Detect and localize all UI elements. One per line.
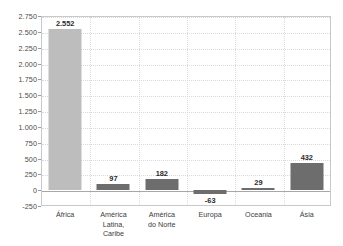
y-axis-tick-label: 2.750	[0, 12, 37, 21]
bar[interactable]	[242, 188, 275, 190]
bar[interactable]	[145, 179, 178, 191]
bar-group[interactable]: -63	[186, 16, 234, 206]
bar-group[interactable]: 182	[138, 16, 186, 206]
bar-group[interactable]: 97	[89, 16, 137, 206]
y-axis-tick-label: 1.500	[0, 91, 37, 100]
x-axis-tick-label: América Latina,Caribe	[89, 210, 137, 239]
y-axis-tick-mark	[38, 206, 41, 207]
y-axis-tick-label: 1.750	[0, 75, 37, 84]
x-axis-tick-label: África	[41, 210, 89, 220]
y-axis-tick-label: 750	[0, 138, 37, 147]
y-axis-tick-label: 500	[0, 154, 37, 163]
x-axis-tick-label-line: Europa	[186, 210, 234, 220]
y-axis-tick-label: 0	[0, 186, 37, 195]
x-axis-tick-label-line: do Norte	[138, 220, 186, 230]
bar-group[interactable]: 2.552	[41, 16, 89, 206]
bar[interactable]	[194, 190, 227, 194]
bar-value-label: 2.552	[56, 19, 75, 28]
x-axis-tick-label-line: Ásia	[283, 210, 331, 220]
x-axis-tick-label-line: América	[138, 210, 186, 220]
y-axis-tick-label: 2.500	[0, 27, 37, 36]
bar-value-label: -63	[205, 196, 216, 205]
bar[interactable]	[49, 29, 82, 191]
x-axis: ÁfricaAmérica Latina,CaribeAméricado Nor…	[41, 210, 331, 240]
bar-value-label: 29	[254, 178, 262, 187]
bar-group[interactable]: 29	[234, 16, 282, 206]
x-axis-tick-label: Oceania	[234, 210, 282, 220]
y-axis-tick-label: 2.000	[0, 59, 37, 68]
bar-group[interactable]: 432	[283, 16, 331, 206]
y-axis-tick-label: 1.000	[0, 122, 37, 131]
bar-value-label: 97	[109, 174, 117, 183]
x-axis-tick-label-line: África	[41, 210, 89, 220]
y-axis-tick-label: 1.250	[0, 107, 37, 116]
x-axis-tick-label-line: Oceania	[234, 210, 282, 220]
bar[interactable]	[290, 163, 323, 190]
bar-value-label: 182	[156, 169, 168, 178]
y-axis-tick-label: 250	[0, 170, 37, 179]
x-axis-tick-label-line: Caribe	[89, 229, 137, 239]
bars-layer: 2.55297182-6329432	[41, 16, 331, 206]
bar-chart: 2.7502.5002.2502.0001.7501.5001.2501.000…	[0, 0, 343, 246]
x-axis-tick-label-line: América Latina,	[89, 210, 137, 229]
x-axis-tick-label: Américado Norte	[138, 210, 186, 229]
bar[interactable]	[97, 184, 130, 190]
x-axis-tick-label: Europa	[186, 210, 234, 220]
y-axis-tick-label: -250	[0, 202, 37, 211]
x-axis-tick-label: Ásia	[283, 210, 331, 220]
y-axis-tick-label: 2.250	[0, 43, 37, 52]
bar-value-label: 432	[301, 153, 313, 162]
